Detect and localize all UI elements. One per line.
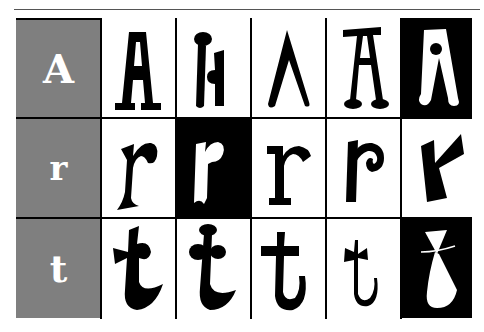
glyph-r-slab [251, 118, 326, 218]
label-text: A [43, 45, 74, 92]
grid-divider [175, 18, 177, 319]
grid-divider [100, 18, 102, 319]
glyph-r-inverted [176, 118, 251, 218]
letter-grid: A r t [16, 18, 472, 319]
row-label-t: t [16, 218, 101, 318]
row-label-a: A [16, 18, 101, 118]
grid-divider [16, 217, 472, 219]
grid-divider [325, 18, 327, 319]
glyph-r-spiral [326, 118, 401, 218]
grid-divider [400, 18, 402, 319]
glyph-t-bowtie [101, 218, 176, 318]
grid-divider [16, 18, 101, 20]
grid-divider [250, 18, 252, 319]
glyph-a-slab-serif [101, 18, 176, 118]
row-label-r: r [16, 118, 101, 218]
glyph-t-slab [251, 218, 326, 318]
glyph-a-ball-terminal [176, 18, 251, 118]
glyph-a-ball-feet [326, 18, 401, 118]
glyph-t-ball-top [176, 218, 251, 318]
label-text: r [50, 148, 68, 188]
top-rule [14, 9, 480, 10]
glyph-a-inverted [401, 18, 472, 118]
glyph-a-lambda [251, 18, 326, 118]
grid-divider [16, 117, 472, 119]
label-text: t [50, 246, 68, 291]
glyph-r-flared [101, 118, 176, 218]
glyph-t-inverted-cone [401, 218, 472, 318]
glyph-t-thin-curl [326, 218, 401, 318]
glyph-r-angular [401, 118, 472, 218]
